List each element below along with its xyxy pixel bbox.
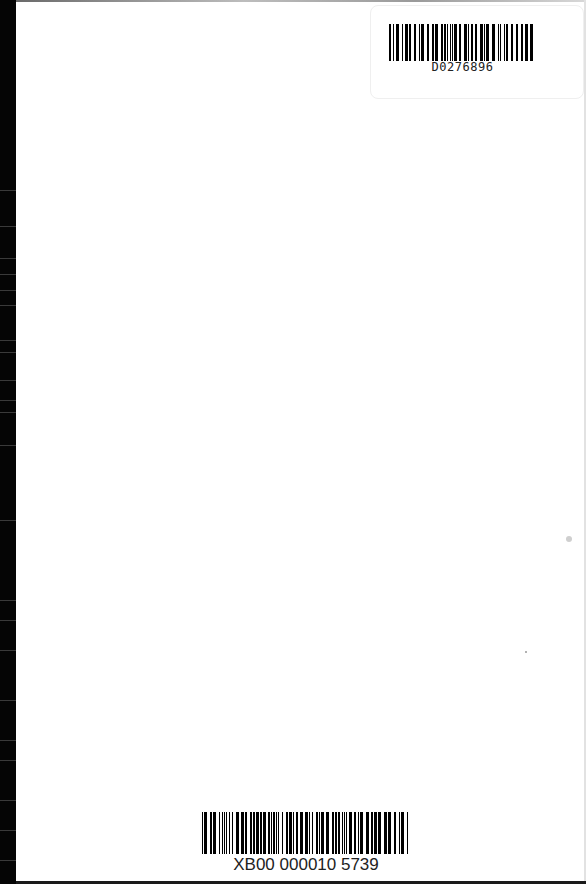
spine-scan-line: [0, 305, 16, 306]
spine-scan-line: [0, 860, 16, 861]
spine-scan-line: [0, 620, 16, 621]
spine-scan-line: [0, 760, 16, 761]
paper-speck: [525, 651, 527, 653]
spine-scan-line: [0, 650, 16, 651]
spine-scan-line: [0, 445, 16, 446]
library-barcode: [389, 24, 535, 61]
library-barcode-label: D0276896: [420, 60, 505, 74]
spine-scan-line: [0, 340, 16, 341]
spine-scan-line: [0, 400, 16, 401]
spine-scan-line: [0, 830, 16, 831]
paper-stain: [566, 536, 572, 542]
spine-scan-line: [0, 226, 16, 227]
spine-scan-line: [0, 190, 16, 191]
spine-scan-line: [0, 800, 16, 801]
spine-scan-line: [0, 600, 16, 601]
page-top-edge: [16, 0, 586, 2]
spine-scan-line: [0, 520, 16, 521]
book-spine-edge: [0, 0, 16, 884]
item-barcode: [202, 812, 410, 854]
spine-scan-line: [0, 740, 16, 741]
spine-scan-line: [0, 380, 16, 381]
spine-scan-line: [0, 274, 16, 275]
spine-scan-line: [0, 700, 16, 701]
spine-scan-line: [0, 352, 16, 353]
item-barcode-label: XB00 000010 5739: [190, 855, 422, 875]
spine-scan-line: [0, 258, 16, 259]
spine-scan-line: [0, 412, 16, 413]
spine-scan-line: [0, 290, 16, 291]
